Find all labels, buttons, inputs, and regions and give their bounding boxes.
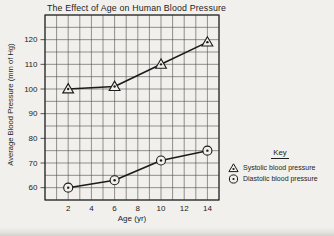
- x-tick-label: 2: [66, 204, 71, 213]
- legend: Key Systolic blood pressure Diastolic bl…: [228, 148, 332, 184]
- y-tick-label: 80: [29, 134, 38, 143]
- data-point-center-dot: [206, 41, 208, 43]
- y-tick-label: 70: [29, 159, 38, 168]
- x-tick-label: 8: [136, 204, 141, 213]
- data-point-center-dot: [113, 179, 115, 181]
- x-tick-label: 12: [180, 204, 189, 213]
- blood-pressure-chart: 607080901001101202468101214: [0, 0, 334, 236]
- y-tick-label: 90: [29, 109, 38, 118]
- data-point-center-dot: [160, 63, 162, 65]
- y-tick-label: 60: [29, 183, 38, 192]
- data-point-center-dot: [67, 186, 69, 188]
- legend-item-systolic: Systolic blood pressure: [228, 163, 332, 174]
- x-tick-label: 6: [112, 204, 117, 213]
- x-axis-title: Age (yr): [45, 214, 219, 223]
- diastolic-circle-icon: [228, 174, 239, 184]
- legend-title-text: Key: [271, 148, 288, 159]
- data-point-center-dot: [113, 85, 115, 87]
- legend-item-diastolic: Diastolic blood pressure: [228, 174, 332, 185]
- scanned-figure: The Effect of Age on Human Blood Pressur…: [0, 0, 334, 236]
- y-tick-label: 120: [24, 35, 38, 44]
- x-tick-label: 4: [89, 204, 94, 213]
- data-point-center-dot: [160, 159, 162, 161]
- legend-label-systolic: Systolic blood pressure: [243, 163, 315, 174]
- data-point-center-dot: [206, 149, 208, 151]
- legend-title: Key: [228, 148, 332, 159]
- x-tick-label: 14: [203, 204, 212, 213]
- x-tick-label: 10: [157, 204, 166, 213]
- y-tick-label: 110: [25, 60, 38, 69]
- legend-label-diastolic: Diastolic blood pressure: [243, 174, 318, 185]
- systolic-triangle-icon: [228, 163, 239, 173]
- data-point-center-dot: [67, 88, 69, 90]
- y-tick-label: 100: [24, 85, 38, 94]
